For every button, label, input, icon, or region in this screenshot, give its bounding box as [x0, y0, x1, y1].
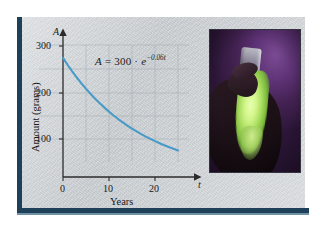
- equation-equals: =: [105, 55, 111, 67]
- equation-annotation: A = 300 · e−0.06t: [95, 55, 166, 67]
- equation-exponent: −0.06t: [146, 54, 165, 62]
- x-axis-title: Years: [110, 197, 133, 208]
- y-tick-label-300: 300: [36, 41, 51, 51]
- glowing-test-tube-photo: [210, 30, 300, 172]
- equation-dot: ·: [134, 55, 138, 67]
- exponential-decay-curve: [63, 58, 178, 151]
- photo-vignette: [210, 30, 300, 172]
- x-tick-label-0: 0: [60, 184, 65, 194]
- equation-lhs: A: [95, 55, 102, 67]
- equation-coefficient: 300: [114, 55, 131, 67]
- x-tick-label-10: 10: [103, 184, 113, 194]
- figure-root: A t 300 200 100 0 10 20 Years Amount (gr…: [0, 0, 320, 229]
- y-axis-title: Amount (grams): [31, 82, 42, 152]
- x-tick-label-20: 20: [149, 184, 159, 194]
- y-axis-variable-label: A: [53, 27, 59, 37]
- x-axis-variable-label: t: [198, 180, 201, 190]
- panel-bottom-rule-secondary: [17, 213, 309, 215]
